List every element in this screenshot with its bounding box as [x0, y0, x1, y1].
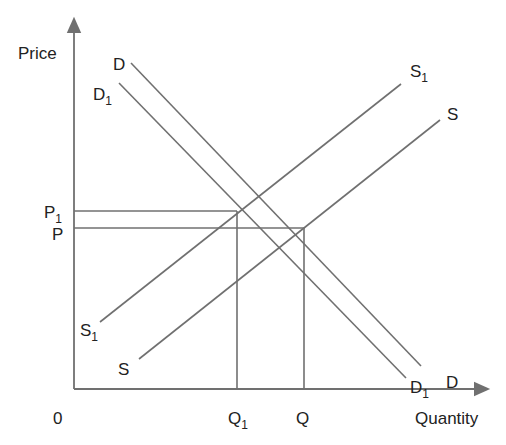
d1-label-bottom: D1 — [410, 378, 429, 401]
q1-label: Q1 — [228, 409, 248, 432]
d-label-bottom: D — [446, 373, 458, 392]
supply-curve-s — [139, 120, 440, 359]
s1-label-bottom: S1 — [80, 321, 98, 344]
d-label-top: D — [113, 55, 125, 74]
demand-curve-d — [131, 63, 421, 366]
s-label-bottom: S — [118, 360, 129, 379]
p-label: P — [52, 225, 63, 244]
d1-label-top: D1 — [93, 85, 112, 108]
origin-label: 0 — [53, 409, 62, 428]
q-label: Q — [296, 409, 309, 428]
supply-curve-s1 — [100, 84, 401, 322]
s1-label-top: S1 — [410, 62, 428, 85]
x-axis-label: Quantity — [415, 409, 479, 428]
demand-curve-d1 — [119, 83, 406, 378]
supply-demand-diagram: Price Quantity 0 P1 P Q1 Q D D1 D D1 S1 … — [0, 0, 506, 445]
s-label-top: S — [447, 105, 458, 124]
p1-label: P1 — [44, 203, 62, 226]
y-axis-label: Price — [18, 44, 57, 63]
